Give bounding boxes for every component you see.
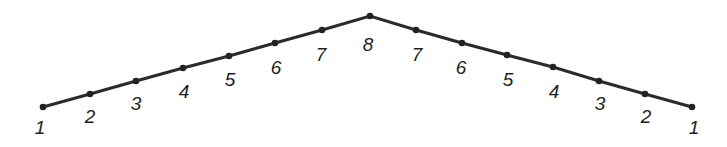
vertex-dot-11 xyxy=(504,52,511,59)
vertex-dot-7 xyxy=(319,27,326,34)
vertex-label-11: 5 xyxy=(503,69,514,90)
vertex-dot-15 xyxy=(689,104,696,111)
chevron-diagram-canvas: 123456787654321 xyxy=(0,0,727,147)
vertex-dot-8 xyxy=(367,13,374,20)
vertex-dot-4 xyxy=(180,65,187,72)
vertex-dot-5 xyxy=(226,53,233,60)
vertex-label-5: 5 xyxy=(225,69,236,90)
chevron-diagram-svg: 123456787654321 xyxy=(0,0,727,147)
vertex-label-14: 2 xyxy=(640,106,652,127)
vertex-label-group: 123456787654321 xyxy=(35,34,700,138)
vertex-dot-14 xyxy=(642,91,649,98)
vertex-dot-13 xyxy=(596,78,603,85)
vertex-dot-3 xyxy=(133,78,140,85)
vertex-label-7: 7 xyxy=(316,44,328,65)
vertex-label-15: 1 xyxy=(689,117,700,138)
vertex-label-10: 6 xyxy=(456,57,467,78)
vertex-dot-1 xyxy=(40,104,47,111)
vertex-dot-2 xyxy=(87,91,94,98)
vertex-dot-10 xyxy=(459,40,466,47)
vertex-label-13: 3 xyxy=(595,93,606,114)
vertex-label-3: 3 xyxy=(131,93,142,114)
vertex-label-8: 8 xyxy=(363,34,374,55)
vertex-dot-6 xyxy=(272,40,279,47)
vertex-dot-9 xyxy=(413,27,420,34)
vertex-label-9: 7 xyxy=(412,44,424,65)
vertex-label-4: 4 xyxy=(179,81,190,102)
vertex-label-12: 4 xyxy=(549,81,560,102)
vertex-dot-12 xyxy=(550,64,557,71)
vertex-label-2: 2 xyxy=(84,106,96,127)
vertex-label-6: 6 xyxy=(271,57,282,78)
vertex-label-1: 1 xyxy=(35,117,46,138)
